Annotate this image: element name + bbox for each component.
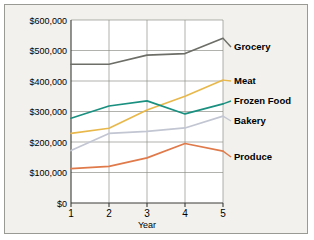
ytick-label-400000: $400,000: [29, 77, 67, 87]
ytick-label-300000: $300,000: [29, 107, 67, 117]
xtick-label-5: 5: [220, 208, 226, 219]
series-label-produce: Produce: [234, 151, 272, 162]
ytick-label-200000: $200,000: [29, 138, 67, 148]
series-leader-produce: [223, 151, 231, 157]
plot-area-wrapper: $600,000 $500,000 $400,000 $300,000 $200…: [5, 5, 309, 235]
ytick-label-500000: $500,000: [29, 46, 67, 56]
series-leader-meat: [223, 80, 231, 81]
xtick-label-2: 2: [106, 208, 112, 219]
xtick-label-3: 3: [144, 208, 150, 219]
x-axis-title: Year: [138, 220, 156, 230]
series-label-meat: Meat: [234, 75, 256, 86]
x-axis-labels: 1 2 3 4 5: [68, 208, 226, 219]
series-labels-group: GroceryMeatFrozen FoodBakeryProduce: [234, 41, 291, 162]
series-label-frozen-food: Frozen Food: [234, 95, 291, 106]
y-axis-labels: $600,000 $500,000 $400,000 $300,000 $200…: [29, 16, 67, 209]
series-leader-bakery: [223, 116, 231, 121]
series-label-bakery: Bakery: [234, 115, 266, 126]
ytick-label-600000: $600,000: [29, 16, 67, 26]
series-leader-grocery: [223, 38, 231, 47]
ytick-label-0: $0: [57, 199, 67, 209]
xtick-label-1: 1: [68, 208, 74, 219]
chart-frame: $600,000 $500,000 $400,000 $300,000 $200…: [4, 4, 308, 234]
x-tickmarks: [71, 203, 223, 207]
series-label-grocery: Grocery: [234, 41, 271, 52]
ytick-label-100000: $100,000: [29, 168, 67, 178]
xtick-label-4: 4: [182, 208, 188, 219]
series-leader-frozen-food: [223, 101, 231, 104]
line-chart: $600,000 $500,000 $400,000 $300,000 $200…: [5, 5, 309, 235]
